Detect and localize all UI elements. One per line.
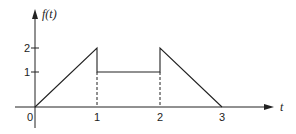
x-axis-arrow-icon	[264, 104, 274, 110]
x-tick-label-3: 3	[219, 111, 225, 123]
x-tick-label-1: 1	[94, 111, 100, 123]
y-tick-label-2: 2	[24, 42, 30, 54]
function-plot: f(t) t 2 1 0 1 2 3	[0, 0, 296, 134]
x-tick-label-2: 2	[157, 111, 163, 123]
x-axis-label: t	[280, 100, 284, 114]
function-line	[35, 48, 222, 107]
y-axis-arrow-icon	[32, 9, 38, 19]
origin-label: 0	[27, 111, 33, 123]
y-tick-label-1: 1	[24, 66, 30, 78]
y-axis-label: f(t)	[42, 7, 57, 21]
